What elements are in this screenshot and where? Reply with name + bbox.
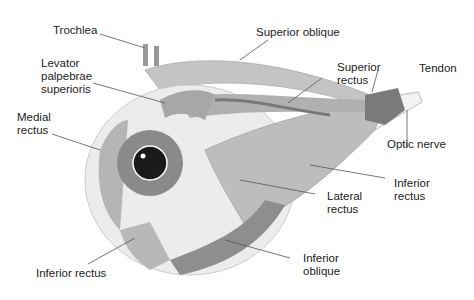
label-optic-nerve: Optic nerve	[387, 138, 446, 151]
label-inferior-oblique: Inferior oblique	[303, 252, 340, 278]
eye-muscle-diagram: Trochlea Superior oblique Levator palpeb…	[0, 0, 474, 300]
label-superior-rectus: Superior rectus	[337, 61, 380, 87]
label-levator-palpebrae-superioris: Levator palpebrae superioris	[41, 57, 92, 96]
label-lateral-rectus: Lateral rectus	[327, 190, 362, 216]
label-medial-rectus: Medial rectus	[17, 111, 51, 137]
label-inferior-rectus-bottom: Inferior rectus	[36, 267, 106, 280]
label-superior-oblique: Superior oblique	[256, 26, 340, 39]
label-trochlea: Trochlea	[53, 24, 97, 37]
label-inferior-rectus-right: Inferior rectus	[394, 177, 430, 203]
label-tendon: Tendon	[419, 62, 457, 75]
